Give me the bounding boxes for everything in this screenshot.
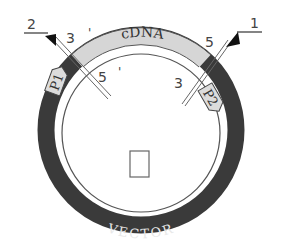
center-box: [130, 151, 149, 177]
arrowhead-right-icon: [226, 32, 240, 47]
arrowhead-left-icon: [45, 34, 56, 46]
arrow-2: [24, 33, 56, 46]
arrow-1-label: 1: [250, 15, 259, 31]
left-inner-prime: ': [118, 65, 121, 79]
arrow-1: [226, 32, 262, 47]
plasmid-diagram: 2 1 3 ' 5 ' 5 3 cDNA VECTOR P1 P2: [0, 0, 284, 250]
cdna-label: cDNA: [120, 24, 167, 42]
arrow-2-label: 2: [27, 16, 36, 32]
right-inner-end-label: 3: [174, 75, 183, 91]
left-outer-end-label: 3: [66, 30, 75, 46]
right-outer-end-label: 5: [205, 34, 214, 50]
left-inner-end-label: 5: [98, 69, 107, 85]
left-outer-prime: ': [88, 26, 91, 40]
inner-circle: [62, 54, 220, 212]
